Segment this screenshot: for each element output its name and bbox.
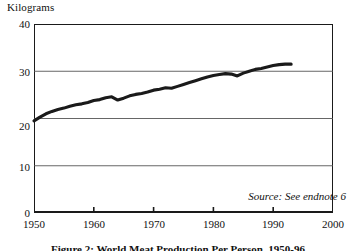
x-tick-label-1980: 1980 <box>203 218 225 230</box>
chart-plot-svg <box>34 24 333 213</box>
x-tick-label-1960: 1960 <box>83 218 105 230</box>
y-axis-unit-label: Kilograms <box>7 1 54 13</box>
y-tick-label-40: 40 <box>19 19 30 30</box>
figure-container: Kilograms 40 30 20 10 0 1950 1960 1970 1… <box>0 0 356 251</box>
x-tick-label-1970: 1970 <box>143 218 165 230</box>
x-tick-label-1950: 1950 <box>23 218 45 230</box>
x-axis-ticks <box>94 207 273 213</box>
y-tick-label-20: 20 <box>19 121 30 132</box>
x-tick-label-2000: 2000 <box>322 218 344 230</box>
y-tick-label-30: 30 <box>19 67 30 78</box>
data-series-line <box>34 64 291 121</box>
y-tick-label-10: 10 <box>19 162 30 173</box>
x-tick-label-1990: 1990 <box>262 218 284 230</box>
source-note: Source: See endnote 6 <box>248 190 346 202</box>
figure-caption: Figure 2: World Meat Production Per Pers… <box>0 243 356 251</box>
plot-area <box>34 24 333 213</box>
